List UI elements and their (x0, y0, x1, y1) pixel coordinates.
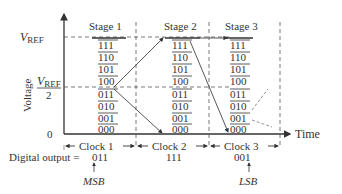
svg-text:100: 100 (172, 75, 189, 87)
stage-3-codes: 111 110 101 100 011 010 001 000 (226, 38, 253, 135)
svg-text:011: 011 (230, 88, 246, 100)
svg-text:010: 010 (172, 100, 189, 112)
svg-text:101: 101 (230, 63, 247, 75)
vref-half-label: VREF (37, 74, 61, 89)
svg-text:110: 110 (98, 51, 115, 63)
arrow-stage1-to-000 (114, 89, 162, 133)
svg-text:011: 011 (98, 88, 114, 100)
svg-text:111: 111 (172, 39, 188, 51)
svg-text:000: 000 (98, 123, 115, 135)
svg-text:011: 011 (172, 88, 188, 100)
stage-2-label: Stage 2 (164, 20, 197, 32)
stage-1-label: Stage 1 (89, 20, 122, 32)
arrow-stage1-to-111 (114, 38, 163, 87)
zero-label: 0 (47, 128, 53, 140)
svg-text:111: 111 (230, 39, 246, 51)
lsb-label: LSB (238, 175, 258, 187)
svg-text:101: 101 (172, 63, 189, 75)
svg-text:Digital output =: Digital output = (9, 151, 79, 163)
digital-output-row: Digital output = 011 111 001 (9, 151, 251, 163)
stage-1-codes: 111 110 101 100 011 010 001 000 (92, 38, 126, 135)
svg-text:110: 110 (172, 51, 189, 63)
msb-label: MSB (82, 175, 105, 187)
svg-text:101: 101 (98, 63, 115, 75)
output-bits-3: 001 (234, 151, 251, 163)
vref-half-denominator: 2 (46, 89, 52, 101)
svg-text:010: 010 (230, 100, 247, 112)
svg-text:000: 000 (172, 123, 189, 135)
svg-text:000: 000 (230, 123, 247, 135)
svg-text:110: 110 (230, 51, 247, 63)
dashed-stage3-up (252, 89, 268, 110)
svg-text:111: 111 (98, 39, 114, 51)
svg-text:100: 100 (98, 75, 115, 87)
stage-3-label: Stage 3 (225, 20, 258, 32)
svg-text:010: 010 (98, 100, 115, 112)
sar-adc-timing-diagram: Voltage VREF VREF 2 0 Stage 1 Stage 2 St… (0, 0, 342, 194)
arrow-stage2-to-000 (190, 41, 228, 132)
x-axis-label: Time (295, 127, 320, 141)
dashed-stage3-down (252, 120, 272, 127)
svg-text:100: 100 (230, 75, 247, 87)
output-bits-2: 111 (166, 151, 182, 163)
vref-label: VREF (20, 30, 44, 45)
output-bits-1: 011 (92, 151, 108, 163)
y-axis-label: Voltage (21, 78, 33, 112)
